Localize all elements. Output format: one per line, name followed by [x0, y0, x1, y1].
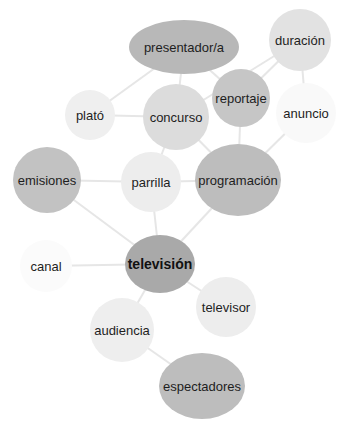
- node-programacion: programación: [195, 144, 281, 216]
- nodes-layer: presentador/aduraciónreportajeplatóconcu…: [13, 9, 336, 419]
- node-television: televisión: [125, 235, 195, 293]
- node-canal: canal: [20, 240, 72, 292]
- node-televisor: televisor: [196, 277, 256, 337]
- concept-map: presentador/aduraciónreportajeplatóconcu…: [0, 0, 349, 424]
- node-label: plató: [76, 108, 104, 123]
- node-reportaje: reportaje: [212, 69, 270, 127]
- node-parrilla: parrilla: [121, 152, 181, 212]
- node-label: anuncio: [283, 106, 329, 121]
- node-audiencia: audiencia: [90, 298, 154, 362]
- node-duracion: duración: [269, 9, 331, 71]
- node-label: programación: [198, 173, 278, 188]
- node-presentador: presentador/a: [129, 20, 239, 74]
- node-label: concurso: [150, 110, 203, 125]
- node-label: televisión: [128, 256, 193, 272]
- node-plato: plató: [65, 90, 115, 140]
- node-label: televisor: [202, 300, 251, 315]
- node-label: audiencia: [94, 323, 150, 338]
- node-label: reportaje: [215, 91, 266, 106]
- node-label: duración: [275, 33, 325, 48]
- node-label: canal: [30, 259, 61, 274]
- node-espectadores: espectadores: [159, 353, 245, 419]
- node-label: emisiones: [18, 173, 77, 188]
- node-label: presentador/a: [144, 40, 225, 55]
- node-anuncio: anuncio: [276, 83, 336, 143]
- node-label: espectadores: [163, 379, 242, 394]
- node-emisiones: emisiones: [13, 147, 81, 213]
- node-concurso: concurso: [143, 84, 209, 150]
- node-label: parrilla: [131, 175, 171, 190]
